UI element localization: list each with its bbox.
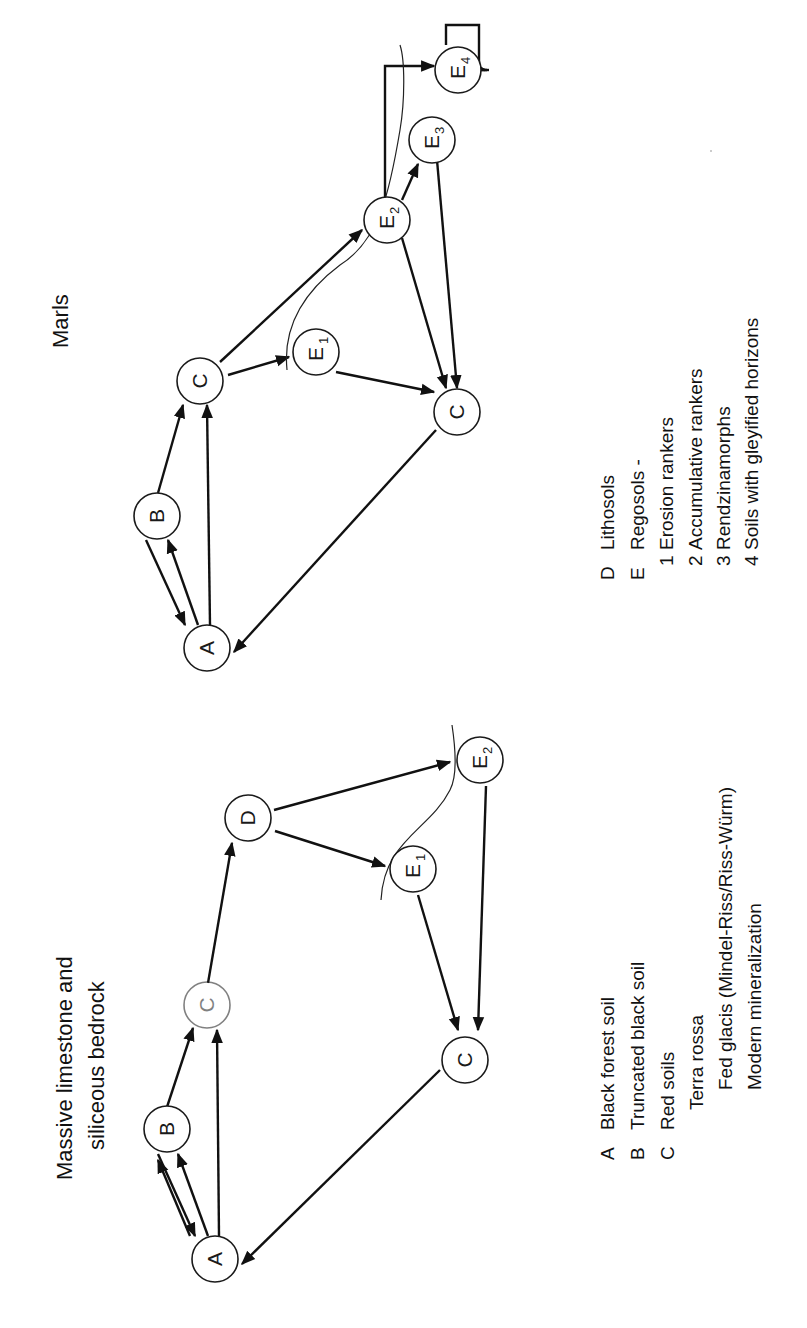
right-panel: Marls A B bbox=[48, 25, 762, 671]
svg-text:E: E bbox=[401, 864, 424, 878]
svg-text:4: 4 bbox=[458, 57, 473, 64]
edge-a-to-b bbox=[168, 540, 198, 625]
svg-text:E: E bbox=[420, 135, 443, 149]
left-node-e2: E 2 bbox=[457, 737, 503, 783]
svg-text:A: A bbox=[195, 641, 218, 655]
edge-d-to-e1 bbox=[275, 831, 385, 866]
edge-b-to-a bbox=[146, 540, 185, 625]
legend-text-e: Regosols - bbox=[627, 459, 648, 550]
left-node-b: B bbox=[144, 1106, 190, 1152]
svg-text:C: C bbox=[195, 997, 218, 1012]
right-node-e4: E 4 bbox=[435, 47, 481, 93]
svg-text:B: B bbox=[155, 1122, 178, 1136]
svg-text:3: 3 bbox=[432, 127, 447, 134]
left-panel-title-line1: Massive limestone and bbox=[52, 956, 77, 1180]
scan-speck bbox=[710, 150, 712, 152]
svg-text:E: E bbox=[304, 347, 327, 361]
legend-key-3: 3 bbox=[713, 555, 734, 566]
svg-text:E: E bbox=[468, 755, 491, 769]
edge-c-to-a bbox=[234, 430, 436, 652]
legend-text-b: Truncated black soil bbox=[627, 962, 648, 1130]
legend-key-a: A bbox=[597, 1147, 618, 1160]
svg-text:2: 2 bbox=[387, 207, 402, 214]
legend-text-fed-glacis: Fed glacis (Mindel-Riss/Riss-Würm) bbox=[715, 787, 736, 1090]
svg-text:C: C bbox=[445, 404, 468, 419]
edge-c-to-e2 bbox=[220, 230, 362, 362]
legend-text-2: Accumulative rankers bbox=[685, 368, 706, 550]
left-node-e1: E 1 bbox=[390, 846, 436, 892]
legend-text-a: Black forest soil bbox=[597, 997, 618, 1130]
left-node-a: A bbox=[192, 1236, 238, 1282]
legend-key-e: E bbox=[627, 567, 648, 580]
svg-text:1: 1 bbox=[413, 854, 428, 861]
right-node-b: B bbox=[134, 493, 180, 539]
left-panel-title-line2: siliceous bedrock bbox=[84, 980, 109, 1150]
right-node-c-top: C bbox=[177, 358, 223, 404]
edge-d-to-e2 bbox=[274, 762, 450, 810]
soil-evolution-diagram: Massive limestone and siliceous bedrock … bbox=[0, 0, 807, 1328]
edge-e3-to-c bbox=[437, 160, 457, 388]
legend-text-d: Lithosols bbox=[597, 475, 618, 550]
legend-text-4: Soils with gleyified horizons bbox=[741, 318, 762, 550]
right-panel-title: Marls bbox=[48, 294, 73, 348]
right-legend: D Lithosols E Regosols - 1 Erosion ranke… bbox=[597, 318, 762, 580]
legend-key-c: C bbox=[657, 1146, 678, 1160]
svg-text:1: 1 bbox=[316, 337, 331, 344]
left-node-c-bottom: C bbox=[442, 1037, 488, 1083]
edge-e1-to-c bbox=[418, 895, 458, 1030]
edge-b-to-c bbox=[167, 1028, 193, 1107]
right-node-e1: E 1 bbox=[293, 329, 339, 375]
svg-text:E: E bbox=[375, 215, 398, 229]
edge-b-to-a bbox=[158, 1154, 195, 1236]
edge-e2-to-c bbox=[478, 786, 486, 1030]
left-node-d: D bbox=[225, 795, 271, 841]
svg-text:D: D bbox=[236, 810, 259, 825]
svg-text:C: C bbox=[453, 1052, 476, 1067]
right-node-a: A bbox=[184, 625, 230, 671]
svg-text:A: A bbox=[203, 1252, 226, 1266]
legend-text-terra-rossa: Terra rossa bbox=[686, 1015, 707, 1110]
legend-text-c: Red soils bbox=[657, 1052, 678, 1130]
edge-e2-to-e3 bbox=[402, 164, 418, 200]
edge-a-to-c bbox=[207, 405, 210, 625]
legend-key-4: 4 bbox=[741, 555, 762, 566]
right-node-e2: E 2 bbox=[364, 197, 410, 243]
edge-a-to-c bbox=[217, 1030, 219, 1236]
legend-key-b: B bbox=[627, 1147, 648, 1160]
svg-text:E: E bbox=[446, 65, 469, 79]
edge-e2-to-c bbox=[402, 238, 446, 388]
edge-c-to-d bbox=[208, 843, 232, 983]
left-node-c-top: C bbox=[184, 982, 230, 1028]
legend-text-modern-mineralization: Modern mineralization bbox=[744, 903, 765, 1090]
legend-key-2: 2 bbox=[685, 555, 706, 566]
right-node-e3: E 3 bbox=[409, 117, 455, 163]
legend-text-1: Erosion rankers bbox=[656, 417, 677, 550]
legend-key-1: 1 bbox=[656, 555, 677, 566]
svg-text:C: C bbox=[188, 373, 211, 388]
edge-e1-to-c bbox=[336, 372, 434, 392]
left-panel: Massive limestone and siliceous bedrock … bbox=[52, 725, 765, 1282]
edge-a-to-b bbox=[178, 1154, 208, 1236]
svg-text:2: 2 bbox=[480, 747, 495, 754]
legend-text-3: Rendzinamorphs bbox=[713, 406, 734, 550]
right-node-c-bottom: C bbox=[434, 389, 480, 435]
left-legend: A Black forest soil B Truncated black so… bbox=[597, 787, 765, 1160]
edge-c-to-a bbox=[242, 1070, 440, 1264]
svg-text:B: B bbox=[145, 509, 168, 523]
edge-b-to-c bbox=[158, 405, 183, 493]
legend-key-d: D bbox=[597, 566, 618, 580]
edge-c-to-e1 bbox=[228, 357, 289, 375]
